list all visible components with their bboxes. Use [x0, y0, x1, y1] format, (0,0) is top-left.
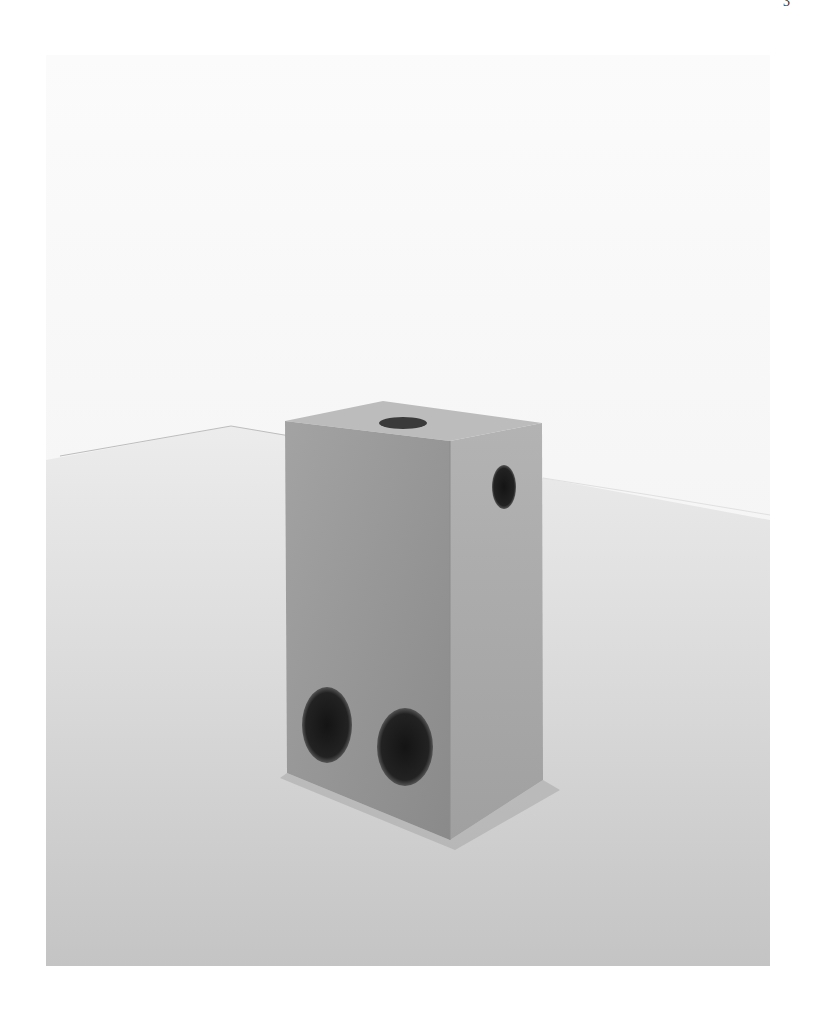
- page-number: 3: [783, 0, 790, 10]
- top-hole: [379, 417, 427, 429]
- side-hole: [492, 465, 516, 509]
- artwork-photograph: [46, 55, 770, 966]
- front-hole-right: [377, 708, 433, 786]
- front-hole-left: [302, 687, 352, 763]
- block-front-face: [285, 421, 450, 840]
